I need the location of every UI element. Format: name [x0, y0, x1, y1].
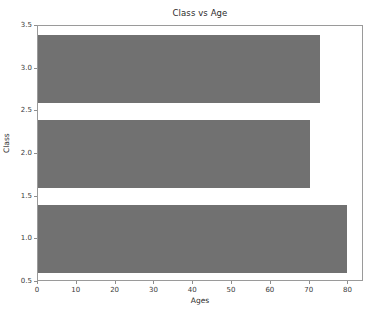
chart-title: Class vs Age [37, 8, 363, 18]
x-tick-label: 60 [265, 286, 274, 294]
x-tick [231, 281, 232, 284]
y-tick-label: 3.5 [8, 21, 32, 29]
y-tick-label: 0.5 [8, 277, 32, 285]
bar-class-1 [38, 205, 347, 273]
x-tick-label: 50 [227, 286, 236, 294]
x-tick-label: 20 [110, 286, 119, 294]
y-tick [34, 110, 37, 111]
x-tick-label: 0 [35, 286, 39, 294]
y-tick-label: 1.5 [8, 192, 32, 200]
chart-figure: Class vs Age Ages Class 0102030405060708… [0, 0, 385, 313]
x-tick [115, 281, 116, 284]
x-tick [153, 281, 154, 284]
x-tick-label: 70 [304, 286, 313, 294]
y-tick [34, 238, 37, 239]
x-tick-label: 10 [71, 286, 80, 294]
bar-class-2 [38, 120, 310, 188]
x-tick [270, 281, 271, 284]
x-tick-label: 40 [188, 286, 197, 294]
y-tick-label: 1.0 [8, 234, 32, 242]
bar-class-3 [38, 35, 320, 103]
y-tick [34, 68, 37, 69]
x-tick [76, 281, 77, 284]
y-tick [34, 281, 37, 282]
y-tick-label: 3.0 [8, 64, 32, 72]
x-tick-label: 30 [149, 286, 158, 294]
plot-area [37, 25, 363, 281]
x-tick [309, 281, 310, 284]
y-tick [34, 196, 37, 197]
x-tick [192, 281, 193, 284]
x-axis-label: Ages [37, 296, 363, 305]
y-tick-label: 2.5 [8, 106, 32, 114]
y-tick [34, 25, 37, 26]
y-tick-label: 2.0 [8, 149, 32, 157]
y-tick [34, 153, 37, 154]
x-tick [347, 281, 348, 284]
x-tick-label: 80 [343, 286, 352, 294]
x-tick [37, 281, 38, 284]
